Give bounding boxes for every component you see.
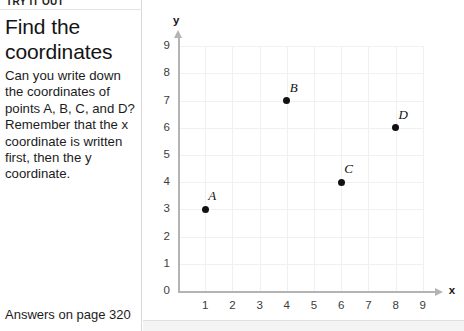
y-axis-label: y xyxy=(173,14,179,26)
x-axis-tick-label: 6 xyxy=(333,299,349,311)
gridline-horizontal xyxy=(178,155,423,156)
gridline-vertical xyxy=(287,46,288,291)
y-axis-tick-label: 9 xyxy=(156,39,170,51)
x-axis-tick-label: 2 xyxy=(224,299,240,311)
panel-eyebrow: TRY IT OUT xyxy=(6,0,64,7)
data-point-label-a: A xyxy=(208,188,216,204)
y-axis-tick-label: 8 xyxy=(156,66,170,78)
y-axis-tick-label: 3 xyxy=(156,202,170,214)
y-axis-tick-label: 7 xyxy=(156,94,170,106)
panel-divider xyxy=(0,9,142,10)
x-axis-tick-label: 8 xyxy=(388,299,404,311)
gridline-vertical xyxy=(205,46,206,291)
y-axis-tick-label: 0 xyxy=(156,284,170,296)
gridline-vertical xyxy=(314,46,315,291)
y-axis-tick-label: 2 xyxy=(156,230,170,242)
coordinate-grid-panel: 0123456789123456789yxABCD xyxy=(143,0,464,320)
gridline-horizontal xyxy=(178,264,423,265)
x-axis-tick-label: 1 xyxy=(197,299,213,311)
x-axis-tick-label: 7 xyxy=(360,299,376,311)
gridline-vertical xyxy=(260,46,261,291)
y-axis-tick-label: 1 xyxy=(156,257,170,269)
data-point-label-d: D xyxy=(399,107,408,123)
answers-reference: Answers on page 320 xyxy=(5,307,141,322)
page-bottom-strip xyxy=(143,320,464,331)
y-axis-arrow-icon xyxy=(174,30,182,38)
y-axis-line xyxy=(178,38,180,292)
worksheet-page: TRY IT OUT Find the coordinates Can you … xyxy=(0,0,464,331)
x-axis-tick-label: 5 xyxy=(306,299,322,311)
x-axis-line xyxy=(178,291,435,293)
data-point-label-b: B xyxy=(290,80,298,96)
instruction-panel: TRY IT OUT Find the coordinates Can you … xyxy=(0,0,142,331)
gridline-horizontal xyxy=(178,237,423,238)
gridline-horizontal xyxy=(178,128,423,129)
y-axis-tick-label: 4 xyxy=(156,175,170,187)
y-axis-tick-label: 6 xyxy=(156,121,170,133)
gridline-vertical xyxy=(341,46,342,291)
gridline-horizontal xyxy=(178,101,423,102)
gridline-vertical xyxy=(232,46,233,291)
data-point-c xyxy=(338,179,345,186)
instruction-text: Can you write down the coordinates of po… xyxy=(5,68,141,183)
x-axis-label: x xyxy=(449,284,455,296)
gridline-horizontal xyxy=(178,46,423,47)
x-axis-arrow-icon xyxy=(435,288,443,296)
gridline-vertical xyxy=(368,46,369,291)
data-point-label-c: C xyxy=(344,161,353,177)
data-point-a xyxy=(202,206,209,213)
gridline-horizontal xyxy=(178,73,423,74)
gridline-horizontal xyxy=(178,182,423,183)
gridline-vertical xyxy=(423,46,424,291)
data-point-b xyxy=(283,97,290,104)
x-axis-tick-label: 4 xyxy=(279,299,295,311)
page-title: Find the coordinates xyxy=(5,14,139,64)
gridline-horizontal xyxy=(178,209,423,210)
scatter-plot: 0123456789123456789yxABCD xyxy=(143,0,464,320)
y-axis-tick-label: 5 xyxy=(156,148,170,160)
x-axis-tick-label: 9 xyxy=(415,299,431,311)
x-axis-tick-label: 3 xyxy=(252,299,268,311)
data-point-d xyxy=(392,124,399,131)
gridline-vertical xyxy=(396,46,397,291)
